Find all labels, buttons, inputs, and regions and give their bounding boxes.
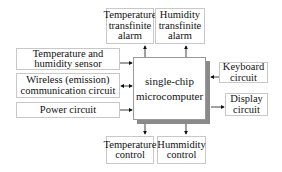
connector-arrows <box>0 0 282 172</box>
